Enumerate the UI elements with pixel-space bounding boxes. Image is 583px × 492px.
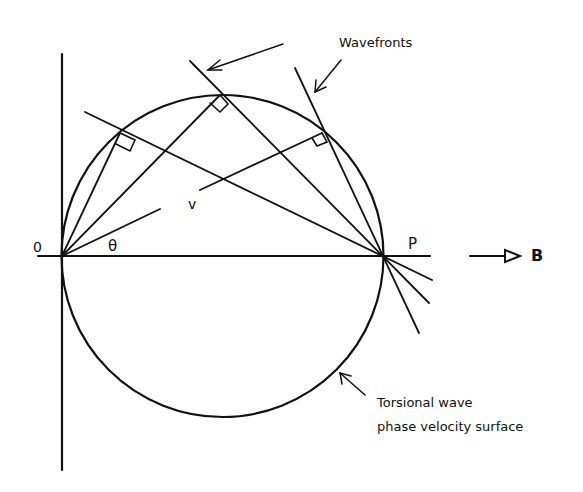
surface-label-line-2: phase velocity surface	[377, 420, 523, 433]
velocity-vector-2	[62, 95, 220, 256]
wavefront-pointer-arrow-2	[315, 60, 341, 92]
wavefronts-label: Wavefronts	[339, 36, 412, 49]
wavefront-pointer-arrow-1	[208, 44, 283, 70]
point-p-label: P	[408, 237, 417, 252]
origin-label: 0	[33, 240, 42, 254]
b-field-arrowhead-icon	[505, 250, 520, 262]
surface-pointer-arrow	[340, 373, 365, 395]
arrowhead-icon	[208, 60, 222, 70]
velocity-vector-3b	[200, 133, 322, 190]
angle-label: θ	[108, 239, 117, 254]
velocity-label: v	[188, 197, 196, 211]
surface-label-line-1: Torsional wave	[377, 396, 473, 409]
b-field-label: B	[531, 248, 543, 264]
wavefront-line-3	[295, 68, 419, 333]
wavefront-line-1	[85, 112, 432, 280]
